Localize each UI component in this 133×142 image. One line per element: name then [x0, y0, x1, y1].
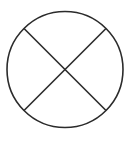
- circle-x-diagram: [0, 0, 133, 142]
